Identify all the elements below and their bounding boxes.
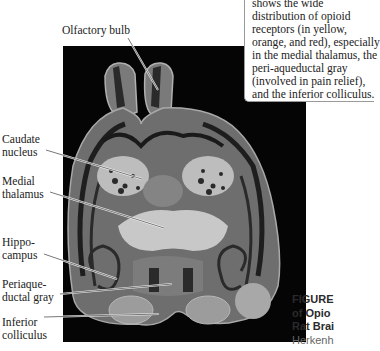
- figure-number: FIGURE: [292, 293, 334, 307]
- callout-line: distribution of opioid: [252, 10, 374, 23]
- label-hippocampus: Hippo- campus: [2, 236, 37, 262]
- callout-line: in the medial thalamus, the: [252, 49, 374, 62]
- label-periaqueductal-gray: Periaque- ductal gray: [2, 278, 54, 304]
- label-inferior-colliculus: Inferior colliculus: [2, 316, 47, 342]
- callout-line: orange, and red), especially: [252, 36, 374, 49]
- figure-title-line: Rat Brai: [292, 320, 334, 334]
- figure-title-line: of Opio: [292, 307, 334, 321]
- callout-line: receptors (in yellow,: [252, 23, 374, 36]
- label-medial-thalamus: Medial thalamus: [2, 175, 44, 201]
- description-callout: shows the wide distribution of opioid re…: [244, 0, 374, 102]
- callout-line: and the inferior colliculus.: [252, 88, 374, 101]
- callout-line: shows the wide: [252, 0, 374, 10]
- figure-caption: FIGURE of Opio Rat Brai Herkenh: [292, 293, 334, 347]
- figure-source: Herkenh: [292, 334, 334, 348]
- label-caudate-nucleus: Caudate nucleus: [2, 133, 40, 159]
- callout-line: (involved in pain relief),: [252, 75, 374, 88]
- label-olfactory-bulb: Olfactory bulb: [62, 24, 130, 37]
- callout-line: peri-aqueductal gray: [252, 62, 374, 75]
